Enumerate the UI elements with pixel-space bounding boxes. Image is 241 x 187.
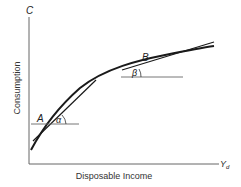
tangent-line-b	[122, 42, 214, 70]
consumption-function-diagram: C Yd Consumption Disposable Income A α B…	[0, 0, 241, 187]
y-axis-symbol: C	[26, 6, 33, 16]
x-axis-symbol-subscript: d	[226, 164, 229, 170]
y-axis-label: Consumption	[12, 61, 22, 114]
angle-arc-beta	[139, 69, 141, 77]
x-axis-label: Disposable Income	[76, 171, 153, 181]
angle-label-alpha: α	[56, 116, 61, 125]
tangent-line-a	[33, 80, 96, 141]
point-label-b: B	[142, 53, 149, 63]
consumption-curve	[31, 46, 214, 150]
diagram-canvas	[0, 0, 241, 187]
angle-label-beta: β	[132, 69, 137, 78]
angle-arc-alpha	[62, 115, 66, 124]
point-label-a: A	[37, 114, 44, 124]
x-axis-symbol: Yd	[220, 160, 229, 170]
